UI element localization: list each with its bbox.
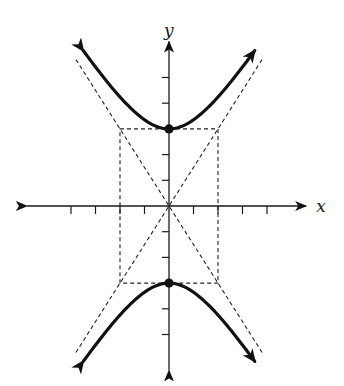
x-axis: x xyxy=(27,196,326,216)
y-axis-label: y xyxy=(163,20,174,40)
hyperbola-graph: x y xyxy=(0,0,344,386)
vertex-dot xyxy=(164,124,173,133)
y-axis: y xyxy=(162,20,174,371)
x-axis-label: x xyxy=(316,196,326,216)
vertex-dot xyxy=(164,279,173,288)
